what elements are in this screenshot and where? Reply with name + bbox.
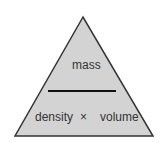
density-label: density	[35, 110, 73, 124]
multiply-sign: ×	[80, 110, 87, 124]
volume-label: volume	[100, 110, 139, 124]
mass-label: mass	[72, 58, 101, 72]
